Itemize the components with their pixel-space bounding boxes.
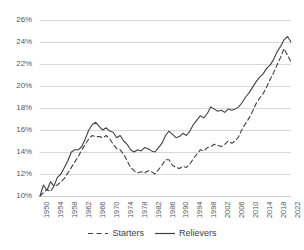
- x-axis-tick-label: 2006: [238, 202, 246, 218]
- series-paths-group: [40, 37, 291, 197]
- x-axis-tick-label: 1998: [210, 202, 218, 218]
- y-axis-tick-label: 14%: [6, 148, 32, 156]
- x-axis-tick-label: 1994: [196, 202, 204, 218]
- legend-item-starters[interactable]: Starters: [87, 229, 144, 238]
- y-axis-tick-label: 18%: [6, 104, 32, 112]
- x-axis-tick-label: 1974: [127, 202, 135, 218]
- x-axis-tick-label: 1970: [113, 202, 121, 218]
- chart-legend: StartersRelievers: [0, 229, 304, 238]
- x-axis-tick-label: 2018: [280, 202, 288, 218]
- gridlines-group: [40, 20, 291, 196]
- x-axis-tick-label: 1958: [71, 202, 79, 218]
- x-axis-tick-label: 2010: [252, 202, 260, 218]
- x-axis-tick-label: 1954: [57, 202, 65, 218]
- y-axis-tick-label: 10%: [6, 192, 32, 200]
- x-axis-tick-label: 1962: [85, 202, 93, 218]
- x-axis-tick-label: 2014: [266, 202, 274, 218]
- y-axis-tick-label: 12%: [6, 170, 32, 178]
- x-axis-tick-label: 1966: [99, 202, 107, 218]
- y-axis-tick-label: 24%: [6, 38, 32, 46]
- y-axis-tick-label: 26%: [6, 16, 32, 24]
- y-axis-tick-label: 22%: [6, 60, 32, 68]
- x-axis-tick-label: 2022: [294, 202, 302, 218]
- x-axis-tick-label: 1986: [169, 202, 177, 218]
- legend-label: Relievers: [179, 229, 217, 238]
- x-axis-tick-label: 1982: [155, 202, 163, 218]
- y-axis-tick-label: 16%: [6, 126, 32, 134]
- x-axis-tick-label: 1950: [43, 202, 51, 218]
- x-axis-tick-label: 1990: [182, 202, 190, 218]
- legend-swatch-dashed: [87, 229, 109, 238]
- strikeout-rate-line-chart: 26%24%22%20%18%16%14%12%10% 195019541958…: [0, 0, 304, 250]
- x-axis-tick-label: 1978: [141, 202, 149, 218]
- legend-swatch-solid: [154, 229, 176, 238]
- y-axis-tick-label: 20%: [6, 82, 32, 90]
- x-axis-tick-label: 2002: [224, 202, 232, 218]
- legend-label: Starters: [112, 229, 144, 238]
- series-line-relievers: [40, 37, 291, 197]
- legend-item-relievers[interactable]: Relievers: [154, 229, 217, 238]
